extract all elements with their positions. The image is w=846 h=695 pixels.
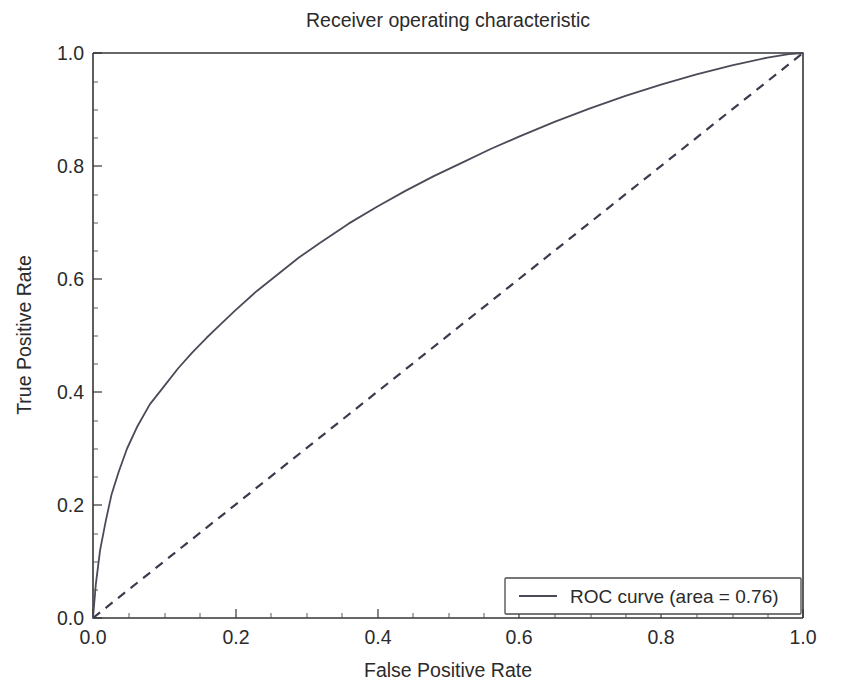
legend-entry-label: ROC curve (area = 0.76) — [570, 586, 779, 607]
y-tick-label-4: 0.8 — [57, 155, 84, 177]
y-tick-label-2: 0.4 — [57, 381, 84, 403]
x-tick-label-0: 0.0 — [79, 626, 106, 648]
y-tick-label-5: 1.0 — [57, 42, 84, 64]
legend[interactable]: ROC curve (area = 0.76) — [505, 578, 801, 614]
x-tick-label-5: 1.0 — [789, 626, 816, 648]
roc-chart-figure: Receiver operating characteristic — [0, 0, 846, 695]
y-tick-label-3: 0.6 — [57, 268, 84, 290]
x-tick-label-3: 0.6 — [505, 626, 532, 648]
y-tick-label-1: 0.2 — [57, 494, 84, 516]
y-axis-label: True Positive Rate — [13, 255, 35, 415]
y-axis-tick-labels: 0.0 0.2 0.4 0.6 0.8 1.0 — [57, 42, 84, 629]
x-axis-tick-labels: 0.0 0.2 0.4 0.6 0.8 1.0 — [79, 626, 816, 648]
x-tick-label-2: 0.4 — [364, 626, 391, 648]
chart-canvas: Receiver operating characteristic — [0, 0, 846, 695]
x-tick-label-4: 0.8 — [647, 626, 674, 648]
y-tick-label-0: 0.0 — [57, 607, 84, 629]
x-axis-label: False Positive Rate — [364, 659, 532, 681]
page-title: Receiver operating characteristic — [306, 9, 590, 31]
x-tick-label-1: 0.2 — [222, 626, 249, 648]
